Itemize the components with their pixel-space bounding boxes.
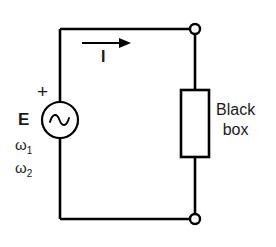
current-arrow-head xyxy=(119,38,131,48)
frequency-omega1-label: ω1 xyxy=(15,137,32,156)
terminal-bottom-circle xyxy=(190,214,200,224)
omega1-subscript: 1 xyxy=(27,145,33,156)
black-box-rect xyxy=(181,90,209,157)
polarity-plus-label: + xyxy=(37,82,48,101)
current-label-I: I xyxy=(101,49,105,65)
terminal-top-circle xyxy=(190,24,200,34)
circuit-diagram: E + ω1 ω2 I Blackbox xyxy=(0,0,276,247)
black-box-label-line1: Black xyxy=(216,101,255,118)
frequency-omega2-label: ω2 xyxy=(15,160,32,179)
source-label-E: E xyxy=(18,111,29,128)
omega2-symbol: ω xyxy=(15,159,27,176)
omega1-symbol: ω xyxy=(15,136,27,153)
black-box-label-line2: box xyxy=(216,120,255,140)
omega2-subscript: 2 xyxy=(27,168,33,179)
black-box-label: Blackbox xyxy=(216,100,255,140)
